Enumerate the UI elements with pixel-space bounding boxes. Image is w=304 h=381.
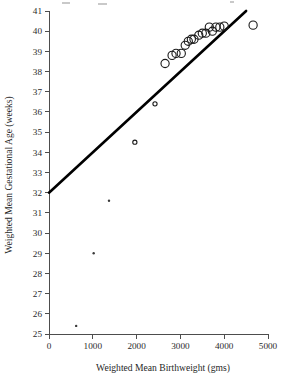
y-tick-label: 38 bbox=[33, 67, 43, 77]
data-point-marker bbox=[177, 49, 185, 57]
data-point-marker bbox=[249, 21, 257, 29]
y-tick-label: 31 bbox=[33, 208, 43, 218]
y-tick-label: 39 bbox=[33, 47, 43, 57]
scan-artifacts bbox=[62, 1, 234, 5]
y-tick-label: 40 bbox=[33, 26, 43, 36]
axes bbox=[45, 11, 269, 339]
y-tick-label: 29 bbox=[33, 249, 43, 259]
y-tick-label: 30 bbox=[33, 228, 43, 238]
y-tick-label: 36 bbox=[33, 107, 43, 117]
y-tick-label: 37 bbox=[33, 87, 43, 97]
y-tick-label: 41 bbox=[33, 6, 43, 16]
regression-line-path bbox=[49, 11, 246, 193]
x-tick-label: 0 bbox=[47, 341, 52, 351]
x-axis-title: Weighted Mean Birthweight (gms) bbox=[96, 362, 230, 374]
y-tick-label: 34 bbox=[33, 148, 43, 158]
data-point-marker bbox=[133, 140, 137, 144]
y-axis-title: Weighted Mean Gestational Age (weeks) bbox=[3, 96, 15, 253]
data-points bbox=[75, 21, 257, 327]
tick-labels: 2526272829303132333435363738394041010002… bbox=[33, 6, 278, 351]
x-tick-label: 1000 bbox=[84, 341, 103, 351]
y-tick-label: 28 bbox=[33, 269, 43, 279]
scatter-plot-figure: 2526272829303132333435363738394041010002… bbox=[0, 0, 304, 381]
x-tick-label: 5000 bbox=[259, 341, 278, 351]
data-point-marker bbox=[153, 102, 157, 106]
y-tick-label: 32 bbox=[33, 188, 43, 198]
y-tick-label: 35 bbox=[33, 127, 43, 137]
x-tick-label: 2000 bbox=[127, 341, 146, 351]
y-tick-label: 33 bbox=[33, 168, 43, 178]
regression-line bbox=[49, 11, 246, 193]
y-tick-label: 27 bbox=[33, 289, 43, 299]
data-point-marker bbox=[161, 59, 169, 67]
y-tick-label: 26 bbox=[33, 309, 43, 319]
data-point-marker bbox=[75, 325, 77, 327]
x-tick-label: 4000 bbox=[215, 341, 234, 351]
x-tick-label: 3000 bbox=[171, 341, 190, 351]
data-point-marker bbox=[108, 200, 110, 202]
y-tick-label: 25 bbox=[33, 329, 43, 339]
data-point-marker bbox=[92, 252, 94, 254]
plot-canvas: 2526272829303132333435363738394041010002… bbox=[0, 0, 304, 381]
